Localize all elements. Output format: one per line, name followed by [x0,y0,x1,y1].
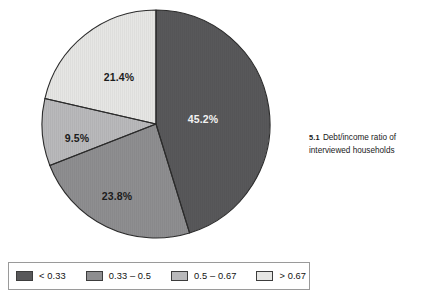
figure-pie-chart: 45.2%23.8%9.5%21.4% 5.1Debt/income ratio… [0,0,423,302]
legend-item-3[interactable]: 0.5 – 0.67 [171,271,236,281]
pie-slice-label-4: 21.4% [104,71,135,83]
legend-label-1: < 0.33 [39,271,66,281]
figure-caption-number: 5.1 [309,133,320,142]
legend-item-2[interactable]: 0.33 – 0.5 [86,271,151,281]
chart-legend: < 0.330.33 – 0.50.5 – 0.67> 0.67 [8,262,310,290]
pie-slice-label-3: 9.5% [65,132,90,144]
figure-caption-text: Debt/income ratio of interviewed househo… [309,133,396,155]
pie-slice-label-2: 23.8% [102,190,133,202]
legend-label-3: 0.5 – 0.67 [194,271,236,281]
legend-swatch-icon-1 [16,271,33,281]
legend-swatch-icon-2 [86,271,103,281]
legend-swatch-icon-4 [256,271,273,281]
legend-label-2: 0.33 – 0.5 [109,271,151,281]
pie-chart-area: 45.2%23.8%9.5%21.4% [40,8,272,240]
legend-swatch-icon-3 [171,271,188,281]
legend-item-1[interactable]: < 0.33 [16,271,66,281]
pie-slice-label-1: 45.2% [188,113,219,125]
figure-caption: 5.1Debt/income ratio of interviewed hous… [309,131,421,157]
pie-chart-svg: 45.2%23.8%9.5%21.4% [40,8,272,240]
legend-item-4[interactable]: > 0.67 [256,271,306,281]
legend-label-4: > 0.67 [279,271,306,281]
